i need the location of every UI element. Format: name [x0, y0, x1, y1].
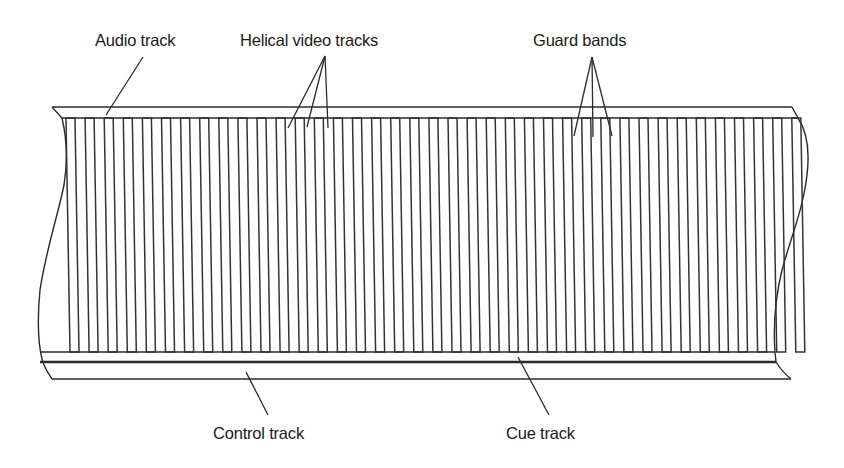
video-track [295, 118, 308, 352]
video-track [276, 118, 289, 352]
video-track [142, 118, 155, 352]
video-track [238, 118, 251, 352]
video-track [696, 118, 709, 352]
cue-track-leader [518, 357, 549, 415]
video-track [314, 118, 327, 352]
video-track [162, 118, 175, 352]
video-track [582, 118, 595, 352]
audio-track-label: Audio track [95, 32, 175, 49]
video-track [333, 118, 346, 352]
video-track [123, 118, 136, 352]
video-track [792, 118, 805, 352]
video-track [66, 118, 79, 352]
video-track [391, 118, 404, 352]
helical-video-tracks-leader [288, 56, 328, 128]
video-track [353, 118, 366, 352]
video-track [544, 118, 557, 352]
cue-track-label: Cue track [506, 425, 575, 442]
video-track [104, 118, 117, 352]
guard-bands-label: Guard bands [533, 32, 626, 49]
video-track [658, 118, 671, 352]
video-track [448, 118, 461, 352]
video-track [563, 118, 576, 352]
video-track [735, 118, 748, 352]
video-track [677, 118, 690, 352]
video-track [410, 118, 423, 352]
video-track [601, 118, 614, 352]
video-track [467, 118, 480, 352]
video-track [429, 118, 442, 352]
video-track [200, 118, 213, 352]
control-track-label: Control track [213, 425, 304, 442]
video-track [524, 118, 537, 352]
video-track [715, 118, 728, 352]
video-track [372, 118, 385, 352]
video-track [181, 118, 194, 352]
video-track [639, 118, 652, 352]
tape-diagram [0, 0, 844, 468]
video-track [85, 118, 98, 352]
helical-video-tracks-label: Helical video tracks [240, 32, 378, 49]
video-track [620, 118, 633, 352]
helical-video-tracks [66, 118, 805, 352]
video-track [505, 118, 518, 352]
video-track [257, 118, 270, 352]
tape-left-edge [38, 107, 66, 379]
video-track [754, 118, 767, 352]
guard-bands-leader [574, 57, 612, 137]
video-track [219, 118, 232, 352]
video-track [486, 118, 499, 352]
